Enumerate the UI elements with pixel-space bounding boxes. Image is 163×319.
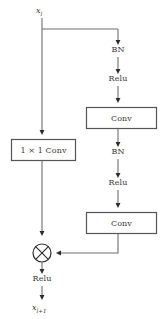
bn-2-label: BN [98, 148, 138, 156]
relu-1-label: Relu [98, 75, 138, 83]
output-variable-subscript: l+1 [37, 308, 47, 314]
residual-block-diagram: Residual block with 1x1 convolution shor… [0, 0, 163, 319]
one-by-one-conv-label: 1 × 1 Conv [12, 140, 75, 160]
conv-1-label: Conv [87, 108, 156, 128]
input-variable-subscript: l [41, 11, 43, 17]
relu-2-label: Relu [98, 179, 138, 187]
edge-conv2-to-merge [58, 234, 118, 254]
conv-2-label: Conv [87, 213, 156, 233]
relu-3-label: Relu [22, 275, 62, 283]
merge-node-shape [33, 244, 51, 262]
input-variable-label: xl [36, 6, 42, 17]
output-variable-label: xl+1 [32, 303, 46, 314]
bn-1-label: BN [98, 46, 138, 54]
